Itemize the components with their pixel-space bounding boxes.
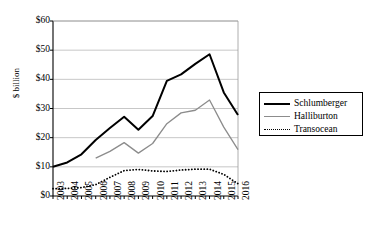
x-tick-label: 2006 — [100, 181, 110, 200]
legend-line-swatch-schlumberger — [264, 98, 290, 108]
chart-legend: Schlumberger Halliburton Transocean — [259, 92, 363, 136]
x-tick-label: 2014 — [214, 181, 224, 200]
x-tick-label: 2004 — [71, 181, 81, 200]
x-tick-label: 2003 — [57, 181, 67, 200]
x-tick-label: 2015 — [228, 181, 238, 200]
legend-line-swatch-transocean — [264, 124, 290, 134]
x-tick-label: 2016 — [242, 181, 252, 200]
legend-item-transocean: Transocean — [264, 122, 358, 135]
legend-line-swatch-halliburton — [264, 111, 290, 121]
x-tick-label: 2012 — [185, 181, 195, 200]
x-tick-label: 2008 — [128, 181, 138, 200]
x-tick-label: 2007 — [114, 181, 124, 200]
x-tick-label: 2005 — [85, 181, 95, 200]
legend-item-schlumberger: Schlumberger — [264, 96, 358, 109]
legend-label-transocean: Transocean — [294, 124, 337, 134]
legend-item-halliburton: Halliburton — [264, 109, 358, 122]
series-line-schlumberger — [53, 54, 238, 167]
legend-label-halliburton: Halliburton — [294, 111, 338, 121]
legend-label-schlumberger: Schlumberger — [294, 98, 347, 108]
x-tick-label: 2013 — [199, 181, 209, 200]
x-tick-label: 2011 — [171, 181, 181, 200]
line-chart: $ billion $0$10$20$30$40$50$60 200320042… — [0, 0, 371, 240]
x-tick-label: 2009 — [142, 181, 152, 200]
x-tick-label: 2010 — [157, 181, 167, 200]
